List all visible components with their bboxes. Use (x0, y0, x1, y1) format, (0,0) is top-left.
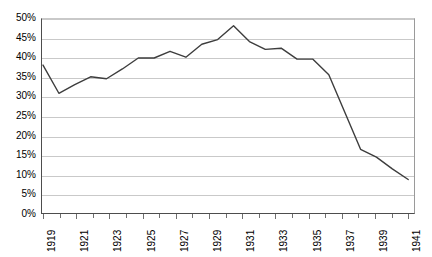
x-axis-tick (76, 214, 77, 219)
x-axis-tick-label: 1931 (246, 230, 256, 252)
x-axis-tick-label: 1937 (346, 230, 356, 252)
x-axis-tick (292, 214, 293, 218)
x-axis-tick-label: 1919 (47, 230, 57, 252)
x-axis-tick-label: 1927 (180, 230, 190, 252)
x-axis-tick (192, 214, 193, 218)
y-axis: 50% 45% 40% 35% 30% 25% 20% 15% 10% 5% 0… (0, 0, 432, 257)
x-axis-tick (342, 214, 343, 219)
y-axis-tick-label: 20% (0, 131, 36, 141)
y-axis-tick-label: 45% (0, 33, 36, 43)
x-axis-tick-label: 1925 (147, 230, 157, 252)
x-axis-tick (408, 214, 409, 219)
x-axis-tick (392, 214, 393, 218)
y-axis-tick-label: 35% (0, 72, 36, 82)
x-axis-tick (309, 214, 310, 219)
x-axis-tick (43, 214, 44, 219)
x-axis-tick (93, 214, 94, 218)
x-axis-tick-label: 1923 (113, 230, 123, 252)
x-axis-tick (126, 214, 127, 218)
x-axis-tick-label: 1935 (313, 230, 323, 252)
y-axis-tick-label: 30% (0, 91, 36, 101)
x-axis-tick (143, 214, 144, 219)
x-axis-tick (159, 214, 160, 218)
x-axis-tick (259, 214, 260, 218)
x-axis-tick (176, 214, 177, 219)
line-chart: 50% 45% 40% 35% 30% 25% 20% 15% 10% 5% 0… (0, 0, 432, 257)
y-axis-tick-label: 25% (0, 111, 36, 121)
x-axis-tick-label: 1941 (412, 230, 422, 252)
x-axis-tick (275, 214, 276, 219)
x-axis-tick-label: 1939 (379, 230, 389, 252)
x-axis-tick-label: 1933 (279, 230, 289, 252)
x-axis-tick (242, 214, 243, 219)
x-axis-tick-label: 1929 (213, 230, 223, 252)
y-axis-tick-label: 15% (0, 150, 36, 160)
y-axis-tick-label: 5% (0, 189, 36, 199)
x-axis-tick (109, 214, 110, 219)
x-axis-tick (226, 214, 227, 218)
x-axis-tick (375, 214, 376, 219)
x-axis-tick (358, 214, 359, 218)
x-axis-tick (209, 214, 210, 219)
x-axis-tick (325, 214, 326, 218)
y-axis-tick-label: 10% (0, 170, 36, 180)
y-axis-tick-label: 40% (0, 52, 36, 62)
y-axis-tick-label: 50% (0, 13, 36, 23)
y-axis-tick-label: 0% (0, 209, 36, 219)
x-axis-tick-label: 1921 (80, 230, 90, 252)
x-axis-tick (60, 214, 61, 218)
